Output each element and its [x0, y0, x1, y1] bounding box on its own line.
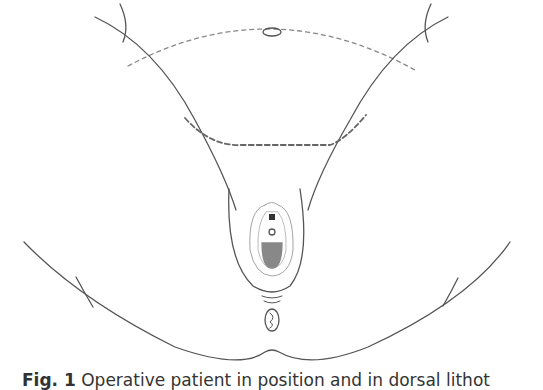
caption-text: Operative patient in position and in dor… — [76, 370, 490, 390]
upper-dashed-incision — [128, 29, 415, 70]
right-upper-fold — [425, 4, 431, 42]
left-inguinal-line — [95, 17, 236, 210]
left-upper-fold — [120, 4, 126, 42]
lower-dashed-incision — [185, 115, 366, 145]
umbilicus — [263, 28, 281, 36]
urethral-meatus — [269, 229, 275, 235]
figure-caption: Fig. 1 Operative patient in position and… — [22, 370, 490, 390]
caption-label: Fig. 1 — [22, 370, 76, 390]
right-inguinal-line — [308, 17, 448, 210]
